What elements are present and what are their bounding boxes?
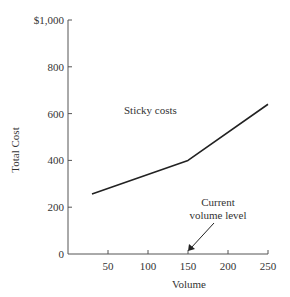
x-tick-label: 100 <box>140 260 157 272</box>
y-tick-label: $1,000 <box>34 14 65 26</box>
y-tick-label: 200 <box>48 201 65 213</box>
x-tick-label: 200 <box>220 260 237 272</box>
current-volume-annotation-line1: Current <box>201 196 235 208</box>
x-axis-ticks: 50100150200250 <box>103 250 277 272</box>
current-volume-annotation-line2: volume level <box>189 209 246 221</box>
x-tick-label: 250 <box>260 260 277 272</box>
x-tick-label: 150 <box>180 260 197 272</box>
cost-behavior-chart: 0200400600800$1,000 50100150200250 Total… <box>0 0 290 297</box>
y-axis-ticks: 0200400600800$1,000 <box>34 14 72 260</box>
chart-canvas: 0200400600800$1,000 50100150200250 Total… <box>0 0 290 297</box>
x-tick-label: 50 <box>103 260 115 272</box>
current-volume-arrow-icon <box>188 223 214 251</box>
y-tick-label: 800 <box>48 61 65 73</box>
y-axis-title: Total Cost <box>9 127 21 172</box>
y-tick-label: 0 <box>59 248 65 260</box>
data-series <box>92 104 268 194</box>
x-axis-title: Volume <box>172 278 206 290</box>
total-cost-line <box>92 104 268 194</box>
y-tick-label: 600 <box>48 108 65 120</box>
y-tick-label: 400 <box>48 154 65 166</box>
arrow-shaft <box>191 223 214 248</box>
sticky-costs-annotation: Sticky costs <box>124 104 177 116</box>
